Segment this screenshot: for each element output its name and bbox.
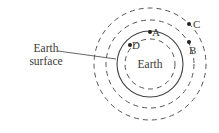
surface-label-line1: Earth bbox=[14, 42, 78, 55]
point-c-dot bbox=[187, 22, 191, 26]
point-b-label: B bbox=[189, 44, 196, 56]
earth-surface-label: Earth surface bbox=[14, 42, 78, 68]
earth-label: Earth bbox=[138, 58, 163, 70]
point-a-label: A bbox=[152, 26, 160, 38]
surface-label-line2: surface bbox=[14, 55, 78, 68]
point-d-label: D bbox=[132, 39, 140, 51]
earth-orbits-diagram: A B C D Earth Earth surface bbox=[0, 0, 219, 133]
point-c-label: C bbox=[193, 18, 200, 30]
